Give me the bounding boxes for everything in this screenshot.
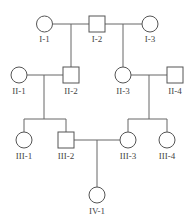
individual-II-1: II-1 (11, 67, 27, 96)
label-II-1: II-1 (12, 86, 26, 96)
individual-II-3: II-3 (115, 67, 131, 96)
female-circle-icon (142, 16, 158, 32)
label-III-2: III-2 (58, 151, 75, 161)
female-circle-icon (89, 187, 105, 203)
female-circle-icon (37, 16, 53, 32)
individual-II-4: II-4 (167, 67, 183, 96)
descent-line-II3-II4 (128, 75, 167, 132)
label-I-1: I-1 (39, 34, 50, 44)
individual-I-1: I-1 (37, 16, 53, 44)
male-square-icon (63, 67, 79, 83)
individual-II-2: II-2 (63, 67, 79, 96)
individual-I-3: I-3 (142, 16, 158, 44)
individual-IV-1: IV-1 (89, 187, 105, 216)
female-circle-icon (115, 67, 131, 83)
label-II-4: II-4 (168, 86, 182, 96)
individual-III-3: III-3 (120, 132, 137, 161)
label-III-4: III-4 (159, 151, 176, 161)
female-circle-icon (11, 67, 27, 83)
label-III-1: III-1 (16, 151, 33, 161)
label-II-3: II-3 (116, 86, 130, 96)
female-circle-icon (16, 132, 32, 148)
individual-I-2: I-2 (89, 16, 105, 44)
female-circle-icon (159, 132, 175, 148)
individual-III-1: III-1 (16, 132, 33, 161)
male-square-icon (89, 16, 105, 32)
pedigree-chart: I-1 I-2 I-3 II-1 II-2 II-3 II-4 (0, 0, 195, 222)
label-I-2: I-2 (92, 34, 103, 44)
male-square-icon (58, 132, 74, 148)
male-square-icon (167, 67, 183, 83)
label-IV-1: IV-1 (89, 206, 105, 216)
label-II-2: II-2 (64, 86, 78, 96)
female-circle-icon (120, 132, 136, 148)
label-I-3: I-3 (145, 34, 156, 44)
individual-III-4: III-4 (159, 132, 176, 161)
descent-line-II1-II2 (24, 75, 66, 132)
label-III-3: III-3 (120, 151, 137, 161)
individual-III-2: III-2 (58, 132, 75, 161)
